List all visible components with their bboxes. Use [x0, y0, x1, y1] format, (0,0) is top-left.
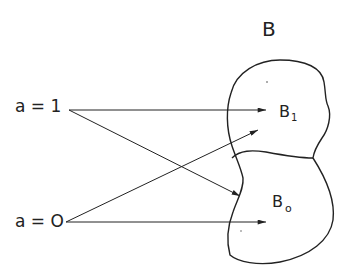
speck: [266, 81, 268, 83]
arrow-a1-to-b0: [69, 110, 240, 196]
region-b0-label: B o: [272, 192, 292, 215]
input-label-a1: a = 1: [15, 96, 61, 116]
set-label-b: B: [262, 17, 276, 41]
arrow-a0-to-b1: [66, 130, 258, 222]
svg-text:o: o: [285, 202, 292, 215]
svg-text:B: B: [279, 102, 290, 121]
svg-text:1: 1: [291, 112, 297, 123]
input-label-a0: a = O: [15, 211, 64, 231]
svg-text:B: B: [272, 192, 283, 211]
region-b1-label: B 1: [279, 102, 297, 123]
region-divider: [232, 151, 313, 158]
set-b-outline: [227, 60, 333, 264]
speck: [240, 230, 242, 232]
diagram-canvas: B B 1 B o a = 1 a = O: [0, 0, 348, 279]
